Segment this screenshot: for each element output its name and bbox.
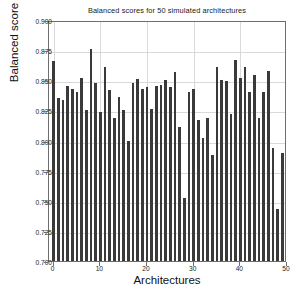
bar <box>183 198 186 261</box>
y-tick-mark <box>44 142 48 143</box>
bar <box>155 86 158 261</box>
y-tick-mark <box>44 111 48 112</box>
plot-area <box>48 21 286 262</box>
y-tick-mark <box>44 232 48 233</box>
bar <box>164 80 167 261</box>
x-tick-label: 40 <box>224 265 254 272</box>
y-tick-mark <box>44 172 48 173</box>
y-tick-mark <box>44 202 48 203</box>
y-tick-mark <box>44 81 48 82</box>
bar <box>272 148 275 261</box>
bar <box>262 92 265 261</box>
bar <box>160 85 163 261</box>
bar <box>127 141 130 262</box>
bar <box>104 67 107 261</box>
bar <box>146 87 149 261</box>
bar-series <box>49 22 285 261</box>
bar <box>141 89 144 261</box>
x-tick-label: 50 <box>271 265 301 272</box>
bar <box>244 67 247 261</box>
bar <box>150 109 153 261</box>
bar <box>57 98 60 261</box>
x-tick-label: 0 <box>38 265 68 272</box>
bar <box>90 49 93 261</box>
y-tick-mark <box>44 262 48 263</box>
bar <box>206 118 209 261</box>
bar <box>234 60 237 261</box>
chart-figure: Balanced scores for 50 simulated archite… <box>0 0 304 295</box>
bar <box>118 97 121 261</box>
bar <box>169 87 172 261</box>
x-tick-mark <box>146 262 147 266</box>
bar <box>225 81 228 261</box>
bar <box>281 153 284 261</box>
bar <box>52 61 55 261</box>
y-tick-mark <box>44 51 48 52</box>
bar <box>216 67 219 261</box>
bar <box>132 83 135 261</box>
bar <box>80 78 83 261</box>
bar <box>174 72 177 261</box>
x-tick-mark <box>99 262 100 266</box>
bar <box>230 114 233 261</box>
x-tick-label: 20 <box>131 265 161 272</box>
y-tick-mark <box>44 21 48 22</box>
bar <box>258 118 261 261</box>
x-tick-mark <box>286 262 287 266</box>
x-tick-mark <box>193 262 194 266</box>
bar <box>211 155 214 261</box>
bar <box>62 100 65 261</box>
chart-title: Balanced scores for 50 simulated archite… <box>48 6 286 15</box>
bar <box>108 90 111 261</box>
bar <box>188 92 191 261</box>
bar <box>85 110 88 261</box>
bar <box>220 80 223 261</box>
bar <box>248 92 251 261</box>
bar <box>253 75 256 261</box>
bar <box>136 79 139 261</box>
bar <box>94 83 97 261</box>
bar <box>197 120 200 261</box>
bar <box>192 89 195 261</box>
x-tick-mark <box>53 262 54 266</box>
x-axis-label: Architectures <box>48 274 286 286</box>
bar <box>122 110 125 261</box>
bar <box>99 112 102 261</box>
x-tick-label: 10 <box>84 265 114 272</box>
bar <box>71 89 74 261</box>
bar <box>76 92 79 261</box>
bar <box>113 118 116 261</box>
bar <box>202 138 205 261</box>
x-tick-mark <box>239 262 240 266</box>
bar <box>276 209 279 261</box>
bar <box>66 86 69 261</box>
bar <box>178 127 181 261</box>
bar <box>267 71 270 261</box>
bar <box>239 78 242 261</box>
x-tick-label: 30 <box>178 265 208 272</box>
y-axis-label: Balanced score <box>8 0 22 163</box>
